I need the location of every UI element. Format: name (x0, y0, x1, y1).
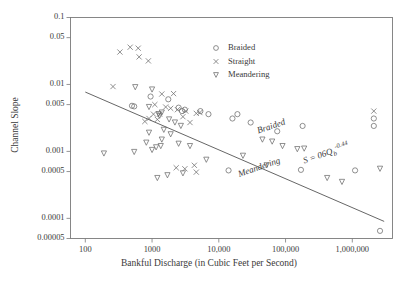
axis-tickmarks (67, 18, 353, 243)
y-tick-label: 0.001 (2, 146, 65, 155)
trend-line (85, 92, 384, 221)
y-tick-label: 0.00005 (2, 233, 65, 242)
y-tick-label: 0.1 (2, 12, 65, 21)
y-tick-label: 0.0005 (2, 166, 65, 175)
legend-item-meandering: Meandering (228, 69, 270, 79)
y-tick-label: 0.01 (2, 79, 65, 88)
y-tick-label: 0.0001 (2, 213, 65, 222)
y-tick-label: 0.005 (2, 99, 65, 108)
y-tick-label: 0.05 (2, 32, 65, 41)
legend-markers (214, 46, 219, 78)
x-tick-label: 1,000,000 (312, 245, 392, 254)
legend-item-braided: Braided (228, 42, 255, 52)
legend-item-straight: Straight (228, 56, 255, 66)
